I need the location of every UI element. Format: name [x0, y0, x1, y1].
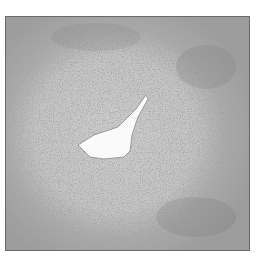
dense-region [156, 197, 236, 237]
tissue-section [6, 17, 249, 250]
dense-region [51, 23, 141, 51]
dense-region [176, 45, 236, 89]
micrograph-image [5, 16, 250, 251]
